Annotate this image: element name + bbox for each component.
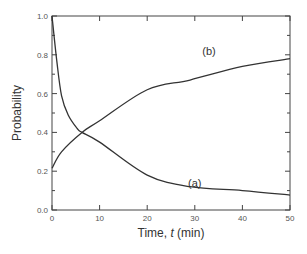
curve-label-b: (b) xyxy=(202,45,215,57)
curve-label-a: (a) xyxy=(188,177,201,189)
x-tick-label: 50 xyxy=(286,214,295,223)
curves xyxy=(52,16,290,195)
probability-chart: 01020304050 0.00.20.40.60.81.0 (a)(b) Ti… xyxy=(0,0,307,254)
y-axis-ticks: 0.00.20.40.60.81.0 xyxy=(37,12,290,215)
plot-frame xyxy=(52,16,290,210)
curve-labels: (a)(b) xyxy=(188,45,216,189)
y-tick-label: 0.4 xyxy=(37,128,49,137)
x-axis-title: Time, t (min) xyxy=(138,226,205,240)
x-tick-label: 20 xyxy=(143,214,152,223)
x-tick-label: 10 xyxy=(95,214,104,223)
x-tick-label: 30 xyxy=(190,214,199,223)
curve-b xyxy=(52,59,290,169)
x-tick-label: 40 xyxy=(238,214,247,223)
curve-a xyxy=(52,16,290,195)
y-tick-label: 0.6 xyxy=(37,90,49,99)
y-tick-label: 0.0 xyxy=(37,206,49,215)
y-tick-label: 0.2 xyxy=(37,167,49,176)
y-axis-title: Probability xyxy=(10,85,24,141)
x-tick-label: 0 xyxy=(50,214,55,223)
y-tick-label: 0.8 xyxy=(37,51,49,60)
y-tick-label: 1.0 xyxy=(37,12,49,21)
